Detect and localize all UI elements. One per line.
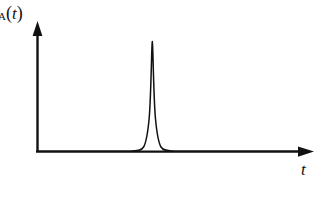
x-axis-label: t (301, 161, 306, 178)
x-axis-arrowhead-icon (298, 146, 314, 156)
plot-canvas (0, 0, 327, 207)
data-curve-peak (38, 42, 298, 152)
y-axis-label: A(t) (0, 4, 23, 22)
y-axis-label-close-paren: ) (17, 3, 23, 23)
y-axis-label-prefix: A (0, 10, 6, 22)
y-axis-arrowhead-icon (33, 21, 43, 36)
plot-figure: A(t) t (0, 0, 327, 207)
